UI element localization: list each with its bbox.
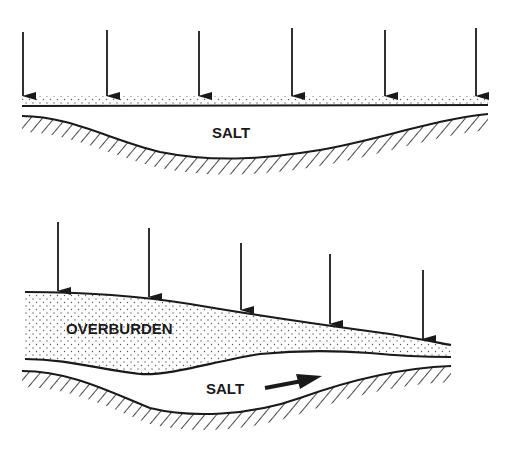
basement-hatch xyxy=(22,114,488,175)
bottom-panel: OVERBURDEN SALT xyxy=(22,222,451,430)
overburden-base-line xyxy=(22,105,488,106)
top-panel: SALT xyxy=(22,28,488,175)
load-arrows-top xyxy=(23,28,476,96)
salt-label-top: SALT xyxy=(212,124,250,141)
overburden-label: OVERBURDEN xyxy=(66,320,173,337)
salt-tectonics-diagram: SALT OVERBURDEN SALT xyxy=(0,0,505,449)
salt-flow-arrow-icon xyxy=(265,374,322,389)
salt-label-bottom: SALT xyxy=(206,380,244,397)
basement-hatch xyxy=(22,366,451,430)
